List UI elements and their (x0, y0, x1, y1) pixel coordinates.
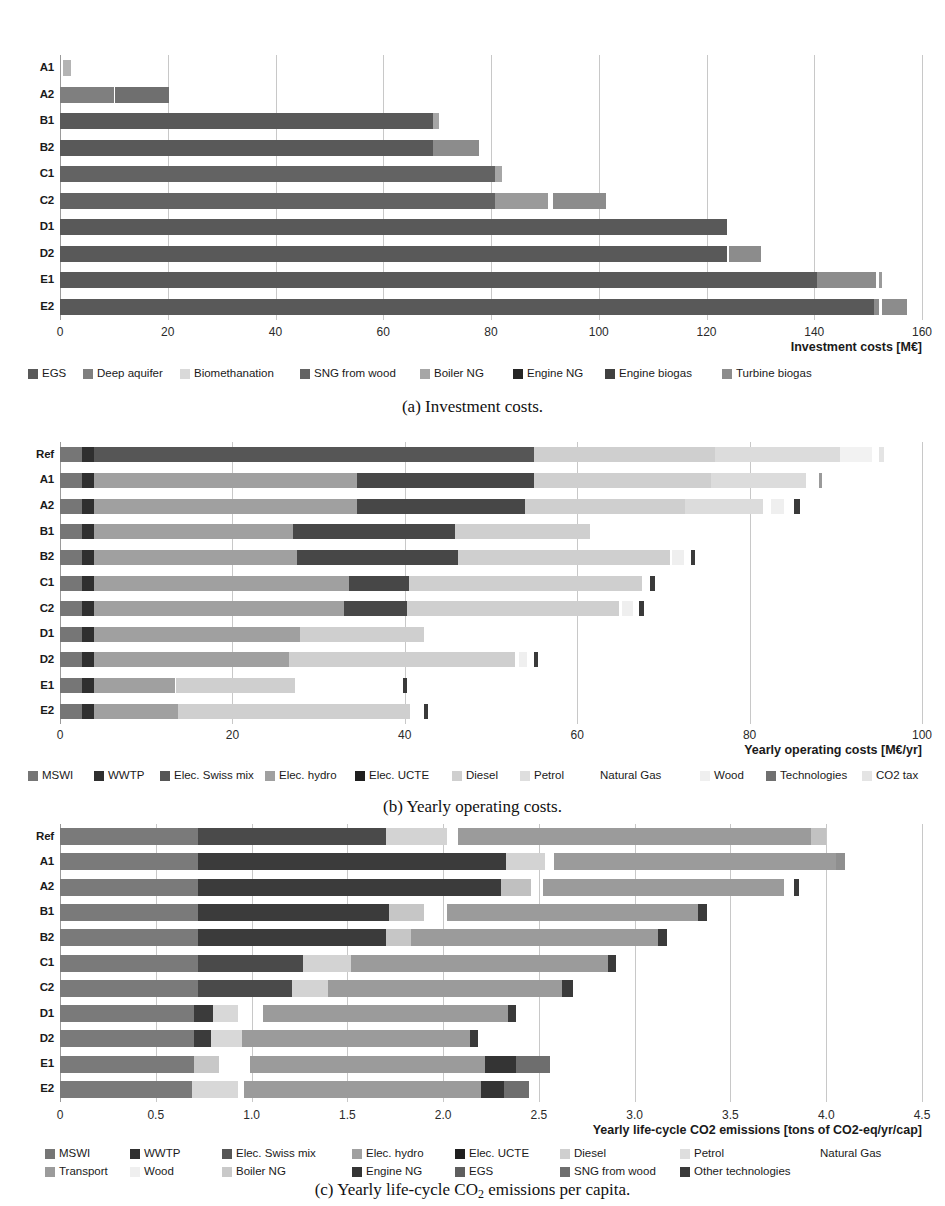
bar-segment-turbine-biogas (729, 246, 761, 262)
legend-swatch-icon (28, 771, 38, 781)
legend-label: Transport (59, 1166, 108, 1178)
panel-co2-emissions: RefA1A2B1B2C1C2D1D2E1E2 00.51.01.52.02.5… (0, 818, 945, 1206)
legend-label: EGS (42, 368, 66, 380)
caption-b: (b) Yearly operating costs. (0, 797, 945, 817)
x-tick-label: 2.0 (435, 1108, 452, 1122)
bar-segment-deep-aquifer (60, 87, 114, 103)
bar-e1 (60, 272, 922, 288)
legend-swatch-icon (45, 1167, 55, 1177)
bar-segment-mswi (60, 627, 82, 642)
bar-segment-sng-from-wood (60, 166, 495, 182)
x-tick-label: 3.5 (722, 1108, 739, 1122)
figure-root: A1A2B1B2C1C2D1D2E1E2 0204060801001201401… (0, 0, 945, 1206)
legend-label: Technologies (780, 770, 847, 782)
bar-e2 (60, 299, 922, 315)
bar-segment-technologies (650, 576, 654, 591)
legend-label: Engine biogas (619, 368, 692, 380)
row-label-a1: A1 (40, 475, 54, 487)
legend-label: Diesel (574, 1148, 606, 1160)
bar-b1 (60, 113, 922, 129)
bar-segment-boiler-ng (433, 113, 439, 129)
bar-segment-mswi (60, 499, 82, 514)
bar-d2 (60, 1030, 922, 1047)
row-label-ref: Ref (36, 449, 54, 461)
x-tick-label: 120 (696, 325, 716, 339)
bar-segment-other-technologies (562, 980, 573, 997)
bar-segment-elec-ucte (198, 879, 501, 896)
bar-segment-elec-swiss-mix (198, 980, 292, 997)
x-axis-title-b: Yearly operating costs [M€/yr] (0, 743, 922, 757)
bar-segment-egs (60, 113, 433, 129)
bar-segment-elec-swiss-mix (198, 955, 303, 972)
legend-swatch-icon (605, 369, 615, 379)
legend-swatch-icon (222, 1167, 232, 1177)
row-label-c2: C2 (40, 983, 54, 995)
bar-segment-diesel (176, 678, 296, 693)
legend-label: SNG from wood (574, 1166, 656, 1178)
bar-segment-mswi (60, 1030, 194, 1047)
bar-segment-elec-swiss-mix (198, 828, 386, 845)
legend-swatch-icon (722, 369, 732, 379)
legend-label: Biomethanation (194, 368, 274, 380)
bar-segment-transport (242, 1030, 470, 1047)
x-tick-label: 0 (57, 728, 64, 742)
bar-segment-elec-hydro (94, 524, 293, 539)
bar-segment-mswi (60, 929, 198, 946)
bar-segment-elec-ucte (194, 1005, 213, 1022)
legend-swatch-icon (352, 1167, 362, 1177)
bar-segment-mswi (60, 524, 82, 539)
bar-segment-transport (351, 955, 608, 972)
bar-segment-mswi (60, 1005, 194, 1022)
bar-segment-elec-hydro (94, 499, 358, 514)
x-tick-label: 1.0 (243, 1108, 260, 1122)
legend-label: Elec. hydro (366, 1148, 424, 1160)
bar-a2 (60, 879, 922, 896)
legend-label: SNG from wood (314, 368, 396, 380)
plot-area-c: RefA1A2B1B2C1C2D1D2E1E2 (60, 824, 922, 1102)
bar-segment-elec-swiss-mix (94, 447, 534, 462)
bar-segment-mswi (60, 904, 198, 921)
bar-segment-wwtp (82, 627, 93, 642)
bar-segment-other-technologies (516, 1056, 550, 1073)
x-axis-title-c-text: Yearly life-cycle CO2 emissions [tons of… (593, 1123, 922, 1137)
bar-segment-elec-ucte (198, 929, 386, 946)
legend-item-natural-gas: Natural Gas (600, 770, 661, 782)
bar-segment-technologies (403, 678, 407, 693)
bar-segment-mswi (60, 550, 82, 565)
legend-item-diesel: Diesel (452, 770, 498, 782)
legend-label: EGS (469, 1166, 493, 1178)
bar-segment-technologies (794, 499, 799, 514)
row-label-c2: C2 (40, 195, 54, 207)
bar-segment-wwtp (82, 576, 93, 591)
x-tick-label: 160 (912, 325, 932, 339)
bar-segment-other-technologies (508, 1005, 516, 1022)
row-label-b1: B1 (40, 116, 54, 128)
gridline-100 (922, 442, 923, 724)
bar-segment-diesel (178, 704, 410, 719)
bar-segment-turbine-biogas (553, 193, 606, 209)
bar-b2 (60, 929, 922, 946)
bar-c2 (60, 980, 922, 997)
bar-segment-elec-ucte (357, 499, 525, 514)
row-label-c1: C1 (40, 169, 54, 181)
bar-segment-boiler-ng (882, 299, 907, 315)
bar-segment-diesel (386, 828, 447, 845)
x-tick-label: 4.0 (818, 1108, 835, 1122)
bar-segment-diesel (534, 447, 715, 462)
x-tick-label: 0.5 (147, 1108, 164, 1122)
legend-item-sng-from-wood: SNG from wood (560, 1166, 656, 1178)
legend-b: MSWIWWTPElec. Swiss mixElec. hydroElec. … (0, 770, 945, 786)
legend-item-sng-from-wood: SNG from wood (300, 368, 396, 380)
legend-item-boiler-ng: Boiler NG (222, 1166, 286, 1178)
bar-segment-wwtp (82, 524, 93, 539)
bar-segment-boiler-ng (879, 272, 882, 288)
caption-a: (a) Investment costs. (0, 397, 945, 417)
bar-segment-transport (328, 980, 562, 997)
legend-label: Diesel (466, 770, 498, 782)
bar-segment-mswi (60, 576, 82, 591)
bar-segment-mswi (60, 704, 82, 719)
bar-segment-mswi (60, 473, 82, 488)
bar-segment-wwtp (82, 601, 93, 616)
bar-segment-diesel (303, 955, 351, 972)
bar-segment-transport (244, 1081, 482, 1098)
